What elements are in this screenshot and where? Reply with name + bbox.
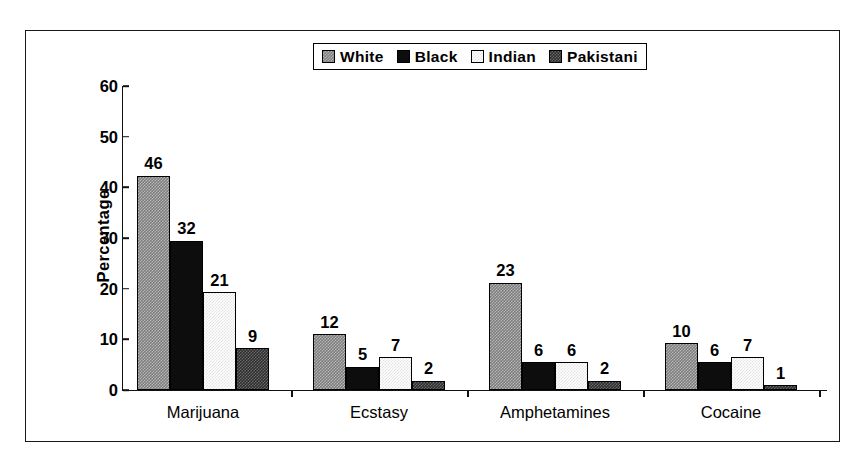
y-tick-mark — [123, 389, 129, 391]
bar-value-label: 2 — [600, 360, 609, 377]
bar-value-label: 5 — [358, 346, 367, 363]
chart-figure-frame: White Black Indian Pakistani Percentage … — [25, 30, 840, 442]
y-tick-label: 30 — [100, 230, 123, 247]
bar-amphetamines-indian: 6 — [555, 86, 588, 390]
x-tick-mark — [467, 390, 469, 397]
bar-group-cocaine: 10671 — [665, 86, 797, 390]
x-category-label-marijuana: Marijuana — [167, 404, 239, 421]
y-tick-label: 50 — [100, 128, 123, 145]
bar-cocaine-indian: 7 — [731, 86, 764, 390]
bar-group-marijuana: 4632219 — [137, 86, 269, 390]
legend-label-white: White — [340, 49, 384, 65]
legend-swatch-pakistani-icon — [549, 50, 562, 63]
bar-rect — [588, 381, 621, 390]
bar-rect — [203, 292, 236, 390]
y-tick-mark — [123, 339, 129, 341]
bar-marijuana-indian: 21 — [203, 86, 236, 390]
y-tick-mark — [123, 187, 129, 189]
bar-rect — [313, 334, 346, 390]
legend-label-pakistani: Pakistani — [567, 49, 638, 65]
x-category-label-ecstasy: Ecstasy — [350, 404, 408, 421]
bar-rect — [346, 367, 379, 390]
y-tick-label: 0 — [109, 382, 123, 399]
bar-amphetamines-white: 23 — [489, 86, 522, 390]
bar-value-label: 6 — [534, 342, 543, 359]
legend-item-indian: Indian — [471, 49, 536, 65]
bar-value-label: 7 — [743, 337, 752, 354]
bar-ecstasy-white: 12 — [313, 86, 346, 390]
y-tick-label: 20 — [100, 280, 123, 297]
bar-value-label: 23 — [496, 262, 514, 279]
y-tick-50: 50 — [100, 128, 123, 145]
bar-value-label: 10 — [672, 323, 690, 340]
bar-cocaine-white: 10 — [665, 86, 698, 390]
plot-area: 0102030405060 4632219125722366210671 Mar… — [122, 86, 827, 391]
x-tick-mark — [819, 390, 821, 397]
bar-value-label: 1 — [776, 365, 785, 382]
y-tick-mark — [123, 288, 129, 290]
bar-value-label: 46 — [144, 155, 162, 172]
bar-rect — [170, 241, 203, 390]
legend-item-white: White — [322, 49, 384, 65]
y-tick-60: 60 — [100, 78, 123, 95]
y-tick-mark — [123, 136, 129, 138]
bar-rect — [555, 362, 588, 390]
bar-marijuana-black: 32 — [170, 86, 203, 390]
y-tick-mark — [123, 85, 129, 87]
bar-marijuana-white: 46 — [137, 86, 170, 390]
bar-group-amphetamines: 23662 — [489, 86, 621, 390]
legend-label-black: Black — [415, 49, 458, 65]
x-tick-mark — [291, 390, 293, 397]
x-tick-mark — [643, 390, 645, 397]
legend-swatch-indian-icon — [471, 50, 484, 63]
x-category-label-amphetamines: Amphetamines — [500, 404, 610, 421]
bar-value-label: 12 — [320, 314, 338, 331]
bar-value-label: 6 — [567, 342, 576, 359]
y-tick-40: 40 — [100, 179, 123, 196]
bar-value-label: 9 — [248, 328, 257, 345]
bar-rect — [412, 381, 445, 390]
y-tick-label: 10 — [100, 331, 123, 348]
bar-cocaine-black: 6 — [698, 86, 731, 390]
bar-rect — [522, 362, 555, 390]
legend-label-indian: Indian — [489, 49, 536, 65]
y-tick-30: 30 — [100, 230, 123, 247]
bar-rect — [379, 357, 412, 390]
y-tick-10: 10 — [100, 331, 123, 348]
bar-rect — [137, 176, 170, 390]
y-tick-label: 60 — [100, 78, 123, 95]
y-tick-mark — [123, 237, 129, 239]
bar-amphetamines-pakistani: 2 — [588, 86, 621, 390]
y-tick-label: 40 — [100, 179, 123, 196]
legend-swatch-white-icon — [322, 50, 335, 63]
bar-rect — [764, 385, 797, 390]
bar-value-label: 32 — [177, 220, 195, 237]
y-tick-20: 20 — [100, 280, 123, 297]
bar-value-label: 2 — [424, 360, 433, 377]
legend-item-pakistani: Pakistani — [549, 49, 638, 65]
bar-rect — [698, 362, 731, 390]
chart-legend: White Black Indian Pakistani — [313, 43, 647, 70]
bar-rect — [236, 348, 269, 390]
bar-ecstasy-indian: 7 — [379, 86, 412, 390]
bar-rect — [731, 357, 764, 390]
bar-value-label: 7 — [391, 337, 400, 354]
y-tick-0: 0 — [109, 382, 123, 399]
bar-ecstasy-pakistani: 2 — [412, 86, 445, 390]
bar-ecstasy-black: 5 — [346, 86, 379, 390]
legend-item-black: Black — [397, 49, 458, 65]
bar-value-label: 6 — [710, 342, 719, 359]
bar-rect — [489, 283, 522, 390]
legend-swatch-black-icon — [397, 50, 410, 63]
bar-value-label: 21 — [210, 272, 228, 289]
bar-rect — [665, 343, 698, 390]
bar-group-ecstasy: 12572 — [313, 86, 445, 390]
bar-amphetamines-black: 6 — [522, 86, 555, 390]
bar-cocaine-pakistani: 1 — [764, 86, 797, 390]
bar-marijuana-pakistani: 9 — [236, 86, 269, 390]
x-category-label-cocaine: Cocaine — [701, 404, 762, 421]
